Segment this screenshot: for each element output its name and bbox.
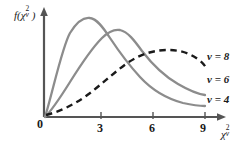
x-tick-label-3: 3 [97, 122, 103, 134]
y-axis [40, 7, 48, 117]
curve-label-nu-6: ν = 6 [207, 74, 229, 85]
curve-nu-6 [45, 30, 205, 117]
chi-squared-distribution-figure: f(χ2ν) χ2ν 0 3 6 9 ν = 8 ν = 6 ν = 4 [0, 0, 250, 145]
x-tick-label-0: 0 [37, 118, 43, 130]
x-axis-label: χ2ν [221, 127, 232, 140]
x-tick-label-6: 6 [149, 122, 155, 134]
x-axis [44, 113, 226, 121]
x-tick-label-9: 9 [200, 122, 206, 134]
curve-label-nu-4: ν = 4 [207, 94, 229, 105]
y-axis-label: f(χ2ν) [14, 8, 35, 21]
curve-label-nu-8: ν = 8 [207, 51, 229, 62]
